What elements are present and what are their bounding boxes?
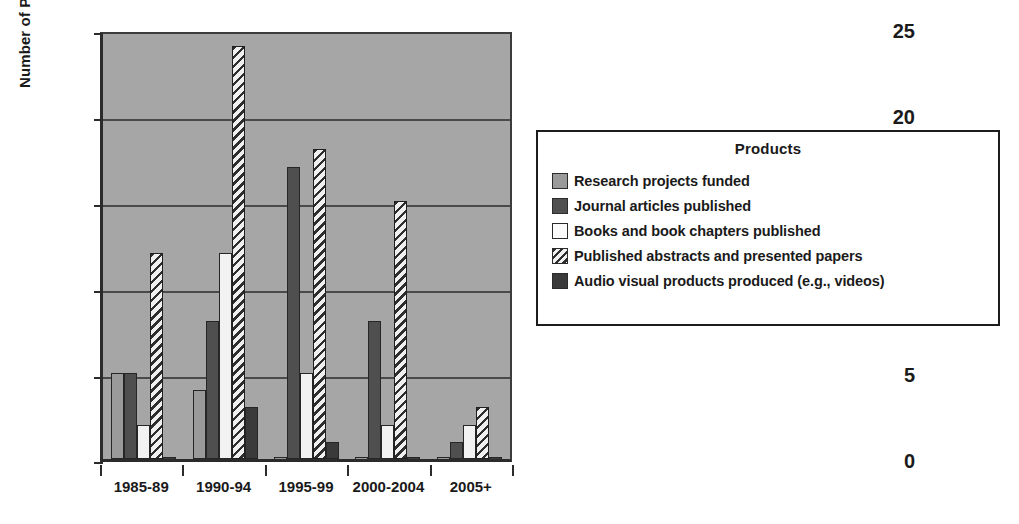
x-axis-tick-label: 1985-89 bbox=[100, 478, 182, 504]
y-axis-tick bbox=[94, 291, 103, 293]
bar-group bbox=[103, 34, 184, 459]
bar-fill bbox=[137, 425, 150, 459]
legend-entry-label: Published abstracts and presented papers bbox=[574, 248, 863, 264]
bar-group-inner bbox=[266, 34, 347, 459]
legend-swatch-icon bbox=[552, 248, 568, 264]
y-axis-tick bbox=[94, 33, 103, 35]
legend-entry-label: Books and book chapters published bbox=[574, 223, 820, 239]
legend: Products Research projects fundedJournal… bbox=[536, 130, 1000, 326]
y-axis-tick-label: 25 bbox=[871, 21, 915, 41]
bar-group bbox=[347, 34, 428, 459]
bar-fill bbox=[124, 373, 137, 459]
x-axis-tick-label: 2000-2004 bbox=[347, 478, 429, 504]
x-axis-tick-labels: 1985-891990-941995-992000-20042005+ bbox=[100, 478, 512, 504]
legend-swatch-icon bbox=[552, 223, 568, 239]
bar-fill bbox=[476, 407, 489, 459]
legend-entries: Research projects fundedJournal articles… bbox=[552, 168, 984, 293]
bar-fill bbox=[163, 457, 176, 459]
bar-fill bbox=[245, 407, 258, 459]
bar-fill bbox=[381, 425, 394, 459]
bar-fill bbox=[232, 46, 245, 459]
bar-fill bbox=[394, 201, 407, 459]
x-axis-tick bbox=[347, 465, 349, 476]
bar-fill bbox=[274, 457, 287, 459]
legend-entry[interactable]: Audio visual products produced (e.g., vi… bbox=[552, 268, 984, 293]
y-axis-tick bbox=[94, 205, 103, 207]
y-axis-tick bbox=[94, 119, 103, 121]
bar-fill bbox=[407, 457, 420, 459]
bar-group-inner bbox=[347, 34, 428, 459]
x-axis-tick-label: 1995-99 bbox=[265, 478, 347, 504]
bar-group-inner bbox=[184, 34, 265, 459]
plot-area bbox=[100, 32, 512, 462]
legend-swatch-icon bbox=[552, 273, 568, 289]
bar-fill bbox=[300, 373, 313, 459]
bar-fill bbox=[313, 149, 326, 459]
x-axis-tick bbox=[430, 465, 432, 476]
legend-entry[interactable]: Research projects funded bbox=[552, 168, 984, 193]
legend-entry[interactable]: Books and book chapters published bbox=[552, 218, 984, 243]
bar-group-inner bbox=[429, 34, 510, 459]
bar-fill bbox=[355, 457, 368, 459]
legend-swatch-icon bbox=[552, 173, 568, 189]
x-axis-tick-label: 2005+ bbox=[430, 478, 512, 504]
x-axis-tick bbox=[100, 465, 102, 476]
legend-entry[interactable]: Published abstracts and presented papers bbox=[552, 243, 984, 268]
bar-group bbox=[184, 34, 265, 459]
y-axis-tick bbox=[94, 377, 103, 379]
bar-fill bbox=[150, 253, 163, 459]
bar-fill bbox=[368, 321, 381, 459]
legend-entry-label: Research projects funded bbox=[574, 173, 750, 189]
legend-title: Products bbox=[552, 140, 984, 157]
y-axis-tick-label: 5 bbox=[871, 365, 915, 385]
bar-fill bbox=[326, 442, 339, 459]
legend-entry[interactable]: Journal articles published bbox=[552, 193, 984, 218]
x-axis-ticks bbox=[100, 465, 512, 477]
y-axis-tick bbox=[94, 462, 103, 464]
legend-entry-label: Journal articles published bbox=[574, 198, 751, 214]
chart-figure: Number of Products 0510152025 1985-89199… bbox=[0, 0, 1019, 524]
bar-fill bbox=[489, 457, 502, 459]
bar-fill bbox=[206, 321, 219, 459]
bar-groups bbox=[103, 34, 510, 459]
bar-fill bbox=[219, 253, 232, 459]
y-axis-title: Number of Products bbox=[16, 0, 38, 130]
bar-fill bbox=[111, 373, 124, 459]
x-axis-tick bbox=[265, 465, 267, 476]
bar-group-inner bbox=[103, 34, 184, 459]
bar-group bbox=[266, 34, 347, 459]
legend-swatch-icon bbox=[552, 198, 568, 214]
bar-fill bbox=[437, 457, 450, 459]
y-axis-tick-label: 20 bbox=[871, 107, 915, 127]
y-axis-tick-label: 0 bbox=[871, 451, 915, 471]
x-axis-tick-label: 1990-94 bbox=[182, 478, 264, 504]
x-axis-tick bbox=[182, 465, 184, 476]
bar-fill bbox=[193, 390, 206, 459]
x-axis-tick bbox=[512, 465, 514, 476]
legend-entry-label: Audio visual products produced (e.g., vi… bbox=[574, 273, 885, 289]
bar-fill bbox=[450, 442, 463, 459]
bar-group bbox=[429, 34, 510, 459]
bar-fill bbox=[463, 425, 476, 459]
bar-fill bbox=[287, 167, 300, 459]
